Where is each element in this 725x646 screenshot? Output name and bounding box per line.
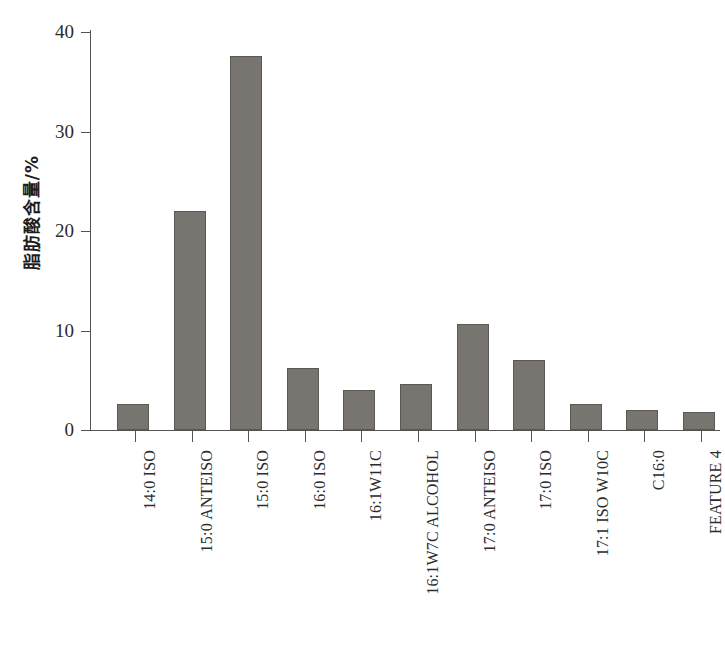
x-axis-label: 15:0 ANTEISO [198,450,216,552]
x-axis-label: 16:1W11C [367,450,385,521]
y-tick [81,32,90,33]
bar [457,324,489,430]
x-axis-label: 17:0 ISO [537,450,555,510]
x-tick [361,431,362,442]
y-tick [81,331,90,332]
x-axis-label: 15:0 ISO [254,450,272,510]
bar [287,368,319,430]
x-axis-label: 16:0 ISO [311,450,329,510]
x-tick [305,431,306,442]
x-axis-label: 14:0 ISO [141,450,159,510]
x-tick [135,431,136,442]
bar [400,384,432,430]
x-tick [644,431,645,442]
x-tick [701,431,702,442]
y-tick-label: 40 [28,22,74,41]
chart-page: 脂肪酸含量/% 010203040 14:0 ISO15:0 ANTEISO15… [0,0,725,646]
bar [230,56,262,430]
x-tick [248,431,249,442]
bar [626,410,658,430]
bar [343,390,375,430]
y-tick-label: 10 [28,321,74,340]
bar [683,412,715,430]
x-axis-label: FEATURE 4 [707,450,725,534]
y-tick [81,231,90,232]
bar [117,404,149,430]
y-tick-label: 20 [28,221,74,240]
y-axis-title: 脂肪酸含量/% [18,155,43,270]
x-axis-label: 17:0 ANTEISO [481,450,499,552]
x-axis-label: C16:0 [650,450,668,490]
x-tick [475,431,476,442]
x-axis-label: 16:1W7C ALCOHOL [424,450,442,595]
x-tick [531,431,532,442]
y-tick [81,132,90,133]
y-tick [81,430,90,431]
bar [570,404,602,430]
x-tick [418,431,419,442]
x-axis-label: 17:1 ISO W10C [594,450,612,556]
x-tick [588,431,589,442]
bar [513,360,545,430]
bars-layer [90,32,722,430]
y-tick-label: 30 [28,122,74,141]
x-tick [192,431,193,442]
plot-area [90,32,722,430]
bar [174,211,206,430]
x-axis-line [90,430,720,431]
y-tick-label: 0 [28,420,74,439]
